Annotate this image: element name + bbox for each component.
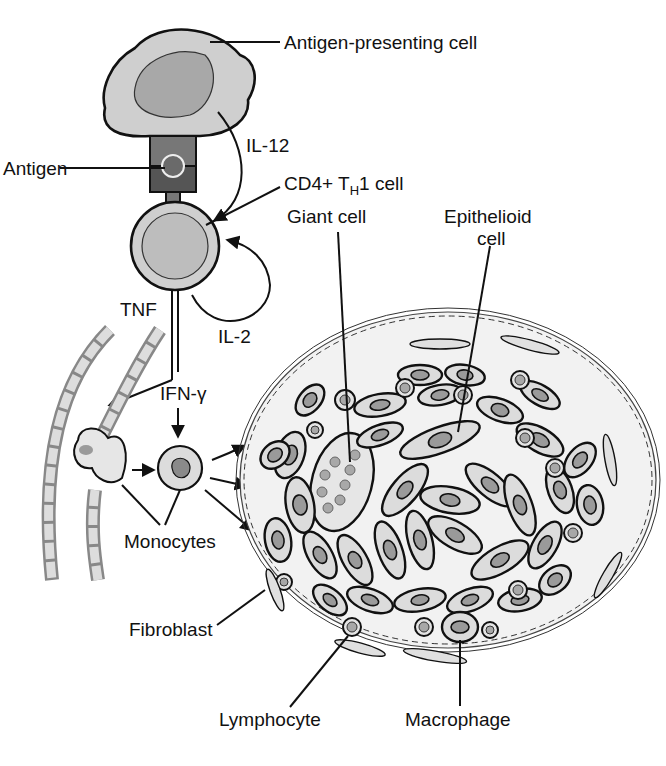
monocyte-migrating <box>74 428 125 482</box>
label-epithelioid-1: Epithelioid <box>444 206 532 227</box>
label-macrophage: Macrophage <box>405 709 511 730</box>
label-monocytes: Monocytes <box>124 531 216 552</box>
antigen-presenting-cell: Antigen-presenting cell <box>104 30 478 137</box>
label-giant-cell: Giant cell <box>287 206 366 227</box>
diagram-canvas: Antigen-presenting cell Antigen IL-12 CD… <box>0 0 666 766</box>
label-antigen: Antigen <box>3 158 67 179</box>
label-il12: IL-12 <box>246 135 289 156</box>
label-apc: Antigen-presenting cell <box>284 32 477 53</box>
label-fibroblast: Fibroblast <box>129 619 213 640</box>
label-lymphocyte: Lymphocyte <box>219 709 321 730</box>
monocyte <box>158 446 202 490</box>
label-il2: IL-2 <box>218 326 251 347</box>
label-th1: CD4+ TH1 cell <box>284 173 403 198</box>
granuloma-diagram: Antigen-presenting cell Antigen IL-12 CD… <box>0 0 666 766</box>
label-ifn: IFN-γ <box>160 383 207 404</box>
lymphocyte-labeled <box>343 618 361 636</box>
label-tnf: TNF <box>120 299 157 320</box>
label-epithelioid-2: cell <box>477 228 506 249</box>
granuloma <box>236 308 660 666</box>
